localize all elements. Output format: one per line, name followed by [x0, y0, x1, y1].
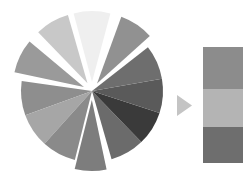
color-swatch-legend — [203, 47, 243, 163]
swatch-band — [203, 127, 243, 163]
figure-canvas — [0, 0, 250, 186]
pie-chart-figure — [0, 0, 250, 186]
swatch-band — [203, 47, 243, 89]
swatch-band — [203, 89, 243, 127]
